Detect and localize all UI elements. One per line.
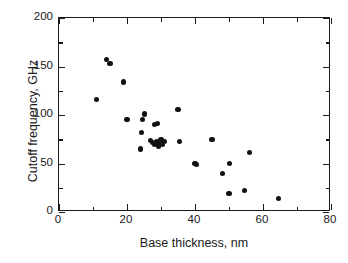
axis-tick [195,18,196,24]
axis-tick [326,42,330,43]
y-axis-title: Cutoff frequency, GHz [26,26,40,216]
axis-tick [326,139,330,140]
axis-tick [323,67,329,68]
axis-tick [59,91,63,92]
axis-tick [59,18,65,19]
data-point [247,150,252,155]
data-point [138,146,143,151]
y-tick-label: 200 [34,11,53,23]
data-point [220,171,225,176]
x-tick-label: 40 [188,214,201,226]
y-tick-label: 50 [40,157,53,169]
axis-tick [59,115,65,116]
axis-tick [297,207,298,211]
axis-tick [323,115,329,116]
scatter-plot-figure: 020406080050100150200 Base thickness, nm… [0,0,348,263]
axis-tick [93,18,94,22]
axis-tick [263,204,264,210]
axis-tick [323,18,329,19]
data-point [194,162,199,167]
data-point [142,111,147,116]
axis-tick [323,164,329,165]
data-point [94,97,99,102]
axis-tick [297,18,298,22]
data-point [139,130,144,135]
data-point [175,107,180,112]
axis-tick [229,207,230,211]
axis-tick [161,207,162,211]
x-tick-label: 80 [324,214,337,226]
data-point [227,161,232,166]
axis-tick [59,139,63,140]
axis-tick [59,42,63,43]
axis-tick [326,91,330,92]
data-point [162,139,167,144]
axis-tick [93,207,94,211]
axis-tick [331,204,332,210]
axis-tick [59,67,65,68]
data-point [209,137,214,142]
axis-tick [127,18,128,24]
data-point [121,79,126,84]
data-point [155,121,160,126]
data-points-layer [59,18,329,210]
data-point [140,117,145,122]
plot-area [58,17,330,211]
data-point [276,196,281,201]
y-tick-label: 0 [47,205,53,217]
data-point [226,191,231,196]
data-point [124,117,129,122]
axis-tick [161,18,162,22]
data-point [177,139,182,144]
x-tick-label: 20 [120,214,133,226]
x-tick-label: 0 [55,214,61,226]
data-point [242,188,247,193]
data-point [107,61,112,66]
axis-tick [59,204,60,210]
x-axis-title: Base thickness, nm [58,236,330,250]
axis-tick [59,164,65,165]
axis-tick [59,188,63,189]
axis-tick [127,204,128,210]
axis-tick [195,204,196,210]
axis-tick [263,18,264,24]
axis-tick [326,188,330,189]
axis-tick [331,18,332,24]
axis-tick [229,18,230,22]
x-tick-label: 60 [256,214,269,226]
